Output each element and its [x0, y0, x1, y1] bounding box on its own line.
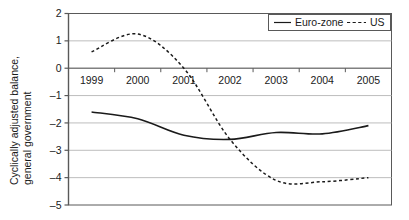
y-axis-title-line2: general government [21, 92, 33, 185]
category-label-2004: 2004 [311, 74, 335, 86]
category-label-2003: 2003 [264, 74, 288, 86]
legend-label-us: US [370, 16, 385, 28]
y-tick-label--2: –2 [50, 117, 62, 129]
plot-area-border [69, 14, 392, 206]
category-label-2002: 2002 [218, 74, 242, 86]
legend: Euro-zone US [269, 15, 391, 31]
y-tick-label--3: –3 [50, 144, 62, 156]
y-axis-title-line1: Cyclically adjusted balance, [8, 56, 20, 185]
category-label-2005: 2005 [357, 74, 381, 86]
y-tick-label--4: –4 [50, 171, 62, 183]
cyclically-adjusted-balance-chart: 210–1–2–3–4–5 19992000200120022003200420… [0, 0, 409, 220]
legend-label-euro-zone: Euro-zone [295, 16, 344, 28]
y-tick-label-1: 1 [56, 34, 62, 46]
plot-frame [69, 14, 392, 206]
category-label-1999: 1999 [80, 74, 104, 86]
y-tick-label-2: 2 [56, 7, 62, 19]
chart-canvas: 210–1–2–3–4–5 19992000200120022003200420… [0, 0, 409, 220]
y-axis-tick-labels: 210–1–2–3–4–5 [50, 7, 62, 211]
y-tick-label--5: –5 [50, 199, 62, 211]
y-tick-label--1: –1 [50, 89, 62, 101]
y-tick-label-0: 0 [56, 62, 62, 74]
y-axis-title: Cyclically adjusted balance, general gov… [8, 56, 33, 185]
category-label-2000: 2000 [126, 74, 150, 86]
